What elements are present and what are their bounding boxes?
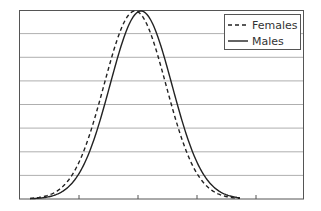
chart: Females Males: [0, 0, 321, 211]
legend-label-females: Females: [252, 19, 298, 32]
legend-label-males: Males: [252, 35, 284, 48]
legend: Females Males: [225, 15, 301, 50]
gridlines: [19, 34, 304, 176]
